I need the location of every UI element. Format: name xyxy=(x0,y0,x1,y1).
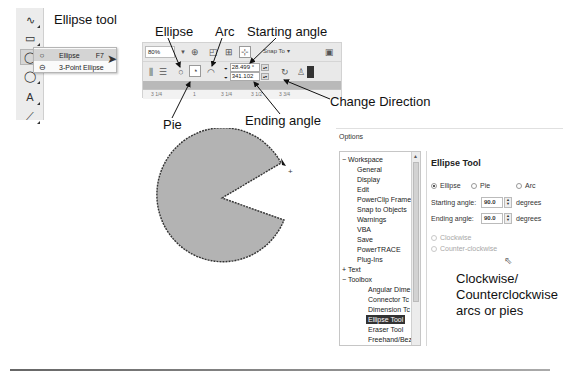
scrollbar-thumb[interactable] xyxy=(413,162,419,302)
options-tree: − Workspace General Display Edit PowerCl… xyxy=(339,151,421,346)
tree-item-powertrace[interactable]: PowerTRACE xyxy=(357,245,401,254)
ending-angle-input[interactable]: 90.0 xyxy=(481,213,503,224)
tree-item-vba[interactable]: VBA xyxy=(357,225,371,234)
tree-item-connector-tool[interactable]: Connector Tc xyxy=(368,295,409,304)
radio-button-icon[interactable] xyxy=(431,183,437,189)
bottom-divider xyxy=(10,369,550,371)
tree-item-warnings[interactable]: Warnings xyxy=(357,215,386,224)
tree-item-powerclip-frame[interactable]: PowerClip Frame xyxy=(357,195,411,204)
ending-angle-spinner[interactable]: ▲▼ xyxy=(504,213,512,224)
callout-clockwise-note: Clockwise/ Counterclockwise arcs or pies xyxy=(456,271,558,319)
collapse-icon[interactable]: − xyxy=(342,276,346,283)
radio-button-icon[interactable] xyxy=(516,183,522,189)
collapse-icon[interactable]: − xyxy=(342,156,346,163)
tree-item-eraser-tool[interactable]: Eraser Tool xyxy=(368,325,403,334)
mouse-pointer-icon: ⇖ xyxy=(504,255,512,266)
panel-title: Ellipse Tool xyxy=(431,158,481,168)
tree-item-snap-to-objects[interactable]: Snap to Objects xyxy=(357,205,407,214)
crosshair-icon: + xyxy=(288,167,293,176)
tree-scrollbar[interactable]: ▲ xyxy=(411,152,420,345)
radio-button-icon[interactable] xyxy=(471,183,477,189)
tree-item-freehand-bezier[interactable]: Freehand/Bez xyxy=(368,335,412,344)
tree-item-dimension-tool[interactable]: Dimension Tc xyxy=(368,305,410,314)
ending-angle-row: Ending angle: 90.0 ▲▼ degrees xyxy=(431,213,541,224)
expand-icon[interactable]: + xyxy=(342,266,346,273)
tree-item-workspace[interactable]: − Workspace xyxy=(342,155,383,164)
tree-item-text[interactable]: + Text xyxy=(342,265,361,274)
starting-angle-input[interactable]: 90.0 xyxy=(481,197,503,208)
tree-item-display[interactable]: Display xyxy=(357,175,380,184)
tree-item-plug-ins[interactable]: Plug-Ins xyxy=(357,255,383,264)
tree-item-save[interactable]: Save xyxy=(357,235,373,244)
tree-item-ellipse-tool[interactable]: Ellipse Tool xyxy=(366,315,405,324)
radio-button-icon[interactable] xyxy=(431,235,437,241)
tree-item-edit[interactable]: Edit xyxy=(357,185,369,194)
pie-shape[interactable]: + xyxy=(150,128,310,278)
ending-angle-label: Ending angle: xyxy=(431,215,481,222)
starting-angle-label: Starting angle: xyxy=(431,199,481,206)
degrees-label: degrees xyxy=(516,199,541,206)
scroll-up-icon[interactable]: ▲ xyxy=(413,153,418,159)
radio-ellipse[interactable]: Ellipse xyxy=(431,182,461,189)
tree-item-angular-dimension[interactable]: Angular Dime xyxy=(368,285,410,294)
starting-angle-row: Starting angle: 90.0 ▲▼ degrees xyxy=(431,197,541,208)
dialog-title: Options xyxy=(339,133,363,140)
radio-counter-clockwise[interactable]: Counter-clockwise xyxy=(431,245,497,252)
starting-angle-spinner[interactable]: ▲▼ xyxy=(504,197,512,208)
radio-pie[interactable]: Pie xyxy=(471,182,490,189)
cursor-arrow-icon xyxy=(281,158,286,166)
radio-clockwise[interactable]: Clockwise xyxy=(431,234,472,241)
degrees-label: degrees xyxy=(516,215,541,222)
radio-button-icon[interactable] xyxy=(431,246,437,252)
tree-item-general[interactable]: General xyxy=(357,165,382,174)
radio-arc[interactable]: Arc xyxy=(516,182,536,189)
tree-item-graph-paper[interactable]: Graph Paper xyxy=(368,345,408,346)
tree-item-toolbox[interactable]: − Toolbox xyxy=(342,275,372,284)
